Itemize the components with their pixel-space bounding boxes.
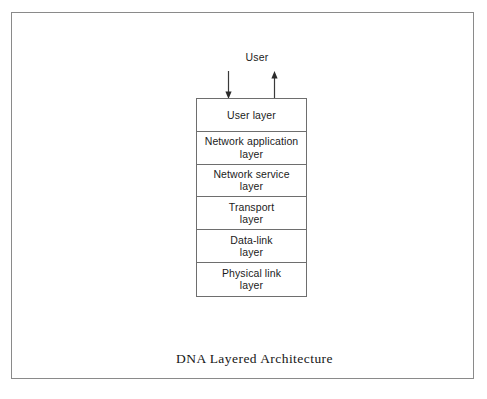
layer-network-application: Network application layer: [197, 132, 306, 165]
layer-network-service-line-1: Network service: [213, 168, 289, 180]
layer-network-service-line-2: layer: [213, 180, 289, 192]
layer-data-link-line-2: layer: [230, 246, 272, 258]
layer-physical-link-line-2: layer: [222, 279, 281, 291]
layer-physical-link-line-1: Physical link: [222, 267, 281, 279]
layer-physical-link: Physical link layer: [197, 263, 306, 296]
layer-network-service: Network service layer: [197, 165, 306, 198]
layer-network-application-line-1: Network application: [205, 135, 299, 147]
layer-transport: Transport layer: [197, 197, 306, 230]
layer-transport-line-1: Transport: [229, 201, 274, 213]
layer-data-link: Data-link layer: [197, 230, 306, 263]
layer-data-link-line-1: Data-link: [230, 234, 272, 246]
layer-user: User layer: [197, 99, 306, 132]
layer-network-application-line-2: layer: [205, 148, 299, 160]
diagram-caption: DNA Layered Architecture: [23, 351, 486, 367]
layer-transport-line-2: layer: [229, 213, 274, 225]
diagram-frame: User User layer Network application laye…: [11, 12, 474, 379]
layer-user-line-1: User layer: [227, 109, 276, 121]
downward-arrow-icon: [223, 71, 234, 99]
upward-arrow-icon: [269, 71, 280, 99]
layer-stack: User layer Network application layer Net…: [196, 98, 307, 297]
user-actor-label: User: [217, 51, 297, 64]
